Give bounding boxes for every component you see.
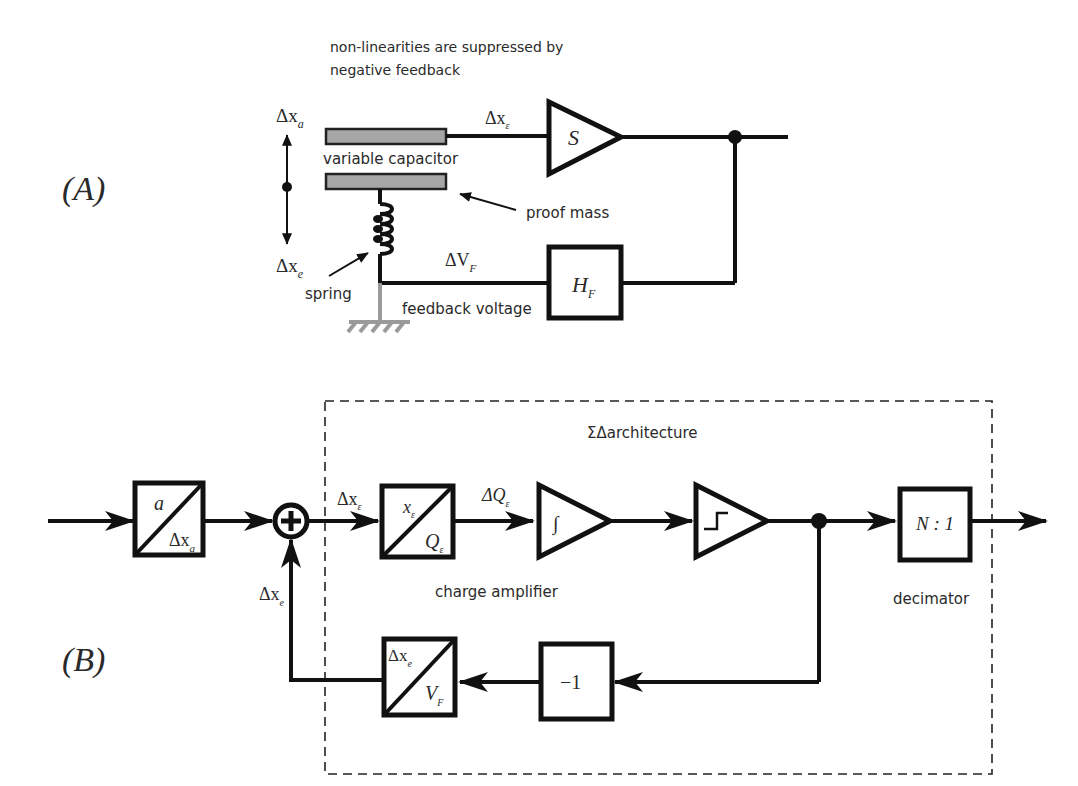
proof-mass-pointer-arrow — [460, 194, 516, 210]
svg-text:ΔVF: ΔVF — [445, 250, 477, 274]
summing-junction — [275, 505, 307, 537]
variable-capacitor-label: variable capacitor — [323, 150, 459, 168]
svg-text:ΔQε: ΔQε — [481, 485, 510, 509]
svg-text:Δxe: Δxe — [276, 255, 304, 281]
sigma-delta-boundary — [325, 401, 992, 774]
displacement-axis: Δxa Δxe — [276, 105, 304, 281]
center-dot — [282, 182, 292, 192]
svg-text:−1: −1 — [560, 671, 581, 693]
charge-conversion-block: xε Qε — [382, 486, 453, 557]
accelerometer-diagram: (A) non-linearities are suppressed by ne… — [0, 0, 1078, 786]
spring-pointer-arrow — [329, 253, 368, 276]
integrator-amplifier: ∫ — [539, 485, 610, 557]
inverter-block: −1 — [541, 644, 612, 719]
sensor-gain-amplifier — [549, 102, 621, 174]
svg-text:Δxe: Δxe — [259, 584, 285, 608]
capacitor-top-plate — [326, 129, 446, 144]
panel-a-label: (A) — [62, 170, 105, 208]
proof-mass-plate — [326, 174, 446, 189]
sigma-delta-title: ΣΔarchitecture — [587, 424, 698, 442]
voltage-to-displacement-block: Δxe VF — [384, 639, 455, 715]
charge-amplifier-label: charge amplifier — [435, 583, 559, 601]
spring-icon — [373, 189, 392, 283]
svg-text:Δxε: Δxε — [337, 489, 362, 512]
spring-label: spring — [305, 285, 352, 303]
svg-text:S: S — [568, 125, 579, 150]
decimator-block: N : 1 — [900, 489, 970, 560]
acceleration-to-displacement-block: a Δxa — [135, 483, 203, 555]
feedback-voltage-label: feedback voltage — [402, 300, 532, 318]
svg-text:a: a — [154, 492, 164, 514]
proof-mass-label: proof mass — [526, 204, 609, 222]
svg-text:Δxa: Δxa — [276, 105, 304, 131]
feedback-note-line2: negative feedback — [330, 62, 461, 78]
panel-b: (B) ΣΔarchitecture a Δxa Δxε xε Qε — [48, 401, 1046, 774]
decimator-label: decimator — [893, 590, 970, 608]
panel-a: (A) non-linearities are suppressed by ne… — [62, 39, 788, 332]
svg-text:Δxε: Δxε — [485, 108, 510, 131]
quantizer-comparator — [696, 485, 767, 557]
ground-icon — [348, 283, 410, 332]
feedback-note-line1: non-linearities are suppressed by — [330, 39, 563, 55]
svg-text:N : 1: N : 1 — [915, 513, 954, 534]
panel-b-label: (B) — [62, 641, 105, 679]
